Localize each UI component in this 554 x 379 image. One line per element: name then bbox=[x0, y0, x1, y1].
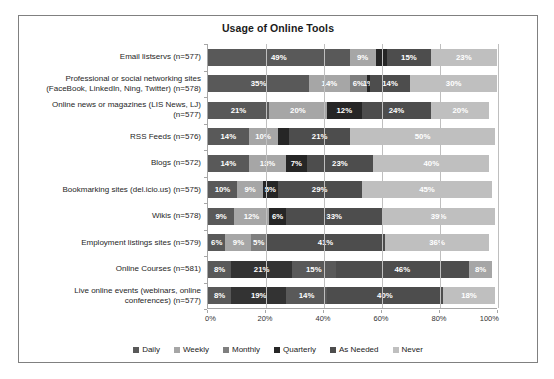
bar-segment[interactable]: 21% bbox=[231, 261, 292, 278]
bar-segment-label: 20% bbox=[452, 106, 468, 115]
legend-label: Weekly bbox=[183, 345, 209, 354]
bar-segment[interactable]: 46% bbox=[336, 261, 469, 278]
bar-segment[interactable]: 24% bbox=[362, 102, 432, 119]
x-axis-tick bbox=[265, 310, 266, 313]
bar-segment[interactable]: 14% bbox=[309, 75, 349, 92]
x-axis: 0%20%40%60%80%100% bbox=[207, 310, 497, 326]
category-label-line: (FaceBook, LinkedIn, Ning, Twitter) (n=5… bbox=[19, 84, 201, 94]
bar-segment-label: 9% bbox=[233, 238, 244, 247]
bar-segment[interactable]: 15% bbox=[292, 261, 336, 278]
bar-row[interactable]: 49%9%15%23% bbox=[208, 49, 497, 66]
bar-row[interactable]: 35%14%6%1%14%30% bbox=[208, 75, 497, 92]
bar-segment[interactable]: 8% bbox=[208, 287, 231, 304]
bar-segment[interactable]: 9% bbox=[237, 181, 263, 198]
bar-segment[interactable]: 15% bbox=[387, 49, 430, 66]
legend-item[interactable]: Monthly bbox=[223, 345, 260, 354]
bar-segment[interactable]: 8% bbox=[469, 261, 492, 278]
x-axis-tick bbox=[207, 310, 208, 313]
bar-segment-label: 21% bbox=[312, 132, 328, 141]
bar-segment[interactable]: 41% bbox=[266, 234, 385, 251]
category-label: Online news or magazines (LIS News, LJ)(… bbox=[19, 100, 201, 120]
legend-label: Daily bbox=[142, 345, 160, 354]
bar-segment[interactable]: 35% bbox=[208, 75, 309, 92]
bar-segment[interactable]: 19% bbox=[231, 287, 286, 304]
bar-segment[interactable]: 33% bbox=[286, 208, 382, 225]
bar-segment[interactable]: 9% bbox=[208, 208, 234, 225]
bar-row[interactable]: 10%9%5%29%45% bbox=[208, 181, 497, 198]
bar-segment-label: 8% bbox=[214, 291, 225, 300]
bar-row[interactable]: 14%10%21%50% bbox=[208, 128, 497, 145]
bar-segment-label: 21% bbox=[254, 265, 270, 274]
bar-segment-label: 45% bbox=[419, 185, 435, 194]
legend-item[interactable]: Quarterly bbox=[274, 345, 316, 354]
bar-row[interactable]: 14%13%7%23%40% bbox=[208, 155, 497, 172]
bar-segment[interactable]: 40% bbox=[327, 287, 443, 304]
bar-segment[interactable]: 13% bbox=[249, 155, 287, 172]
bar-segment[interactable]: 30% bbox=[410, 75, 497, 92]
bar-segment[interactable]: 12% bbox=[234, 208, 269, 225]
category-label: Online Courses (n=581) bbox=[19, 264, 201, 274]
x-axis-tick bbox=[381, 310, 382, 313]
bar-segment[interactable]: 12% bbox=[327, 102, 362, 119]
bar-segment[interactable]: 9% bbox=[225, 234, 251, 251]
bar-segment[interactable]: 10% bbox=[208, 181, 237, 198]
bar-row[interactable]: 8%19%14%40%18% bbox=[208, 287, 497, 304]
bar-segment[interactable]: 14% bbox=[208, 128, 249, 145]
bar-segment[interactable]: 18% bbox=[443, 287, 495, 304]
bar-segment[interactable]: 50% bbox=[350, 128, 495, 145]
legend-label: As Needed bbox=[339, 345, 379, 354]
bar-segment[interactable]: 36% bbox=[385, 234, 489, 251]
bar-segment-label: 15% bbox=[306, 265, 322, 274]
category-label-line: conferences) (n=577) bbox=[19, 296, 201, 306]
bar-segment-label: 40% bbox=[423, 159, 439, 168]
category-label: Professional or social networking sites(… bbox=[19, 74, 201, 94]
gridline bbox=[324, 44, 325, 308]
bar-row[interactable]: 6%9%5%41%36% bbox=[208, 234, 497, 251]
bar-row[interactable]: 8%21%15%46%8% bbox=[208, 261, 497, 278]
legend-item[interactable]: As Needed bbox=[330, 345, 379, 354]
bar-row[interactable]: 9%12%6%33%39% bbox=[208, 208, 497, 225]
bar-segment-label: 24% bbox=[389, 106, 405, 115]
bar-segment-label: 21% bbox=[231, 106, 247, 115]
bar-segment[interactable]: 14% bbox=[208, 155, 249, 172]
bar-segment-label: 23% bbox=[456, 53, 472, 62]
bar-segment-label: 36% bbox=[429, 238, 445, 247]
bar-segment[interactable] bbox=[278, 128, 290, 145]
bar-segment-label: 12% bbox=[336, 106, 352, 115]
bar-segment[interactable]: 20% bbox=[269, 102, 327, 119]
x-axis-tick-label: 100% bbox=[480, 314, 499, 323]
bar-segment-label: 14% bbox=[220, 132, 236, 141]
bar-segment[interactable]: 49% bbox=[208, 49, 350, 66]
legend-label: Monthly bbox=[232, 345, 260, 354]
category-label: Blogs (n=572) bbox=[19, 158, 201, 168]
bar-segment[interactable]: 9% bbox=[350, 49, 376, 66]
legend-swatch-icon bbox=[174, 347, 180, 353]
bar-segment-label: 23% bbox=[332, 159, 348, 168]
bar-segment[interactable]: 40% bbox=[373, 155, 489, 172]
bar-segment-label: 46% bbox=[394, 265, 410, 274]
x-axis-tick-label: 40% bbox=[315, 314, 330, 323]
bar-segment-label: 33% bbox=[326, 212, 342, 221]
bar-segment[interactable]: 6% bbox=[269, 208, 286, 225]
chart-title: Usage of Online Tools bbox=[19, 22, 537, 34]
bar-segment[interactable]: 39% bbox=[382, 208, 495, 225]
bar-segment[interactable]: 21% bbox=[208, 102, 269, 119]
bar-segment[interactable]: 14% bbox=[370, 75, 410, 92]
bar-segment-label: 10% bbox=[215, 185, 231, 194]
legend-item[interactable]: Weekly bbox=[174, 345, 209, 354]
legend-item[interactable]: Daily bbox=[133, 345, 160, 354]
bar-segment[interactable]: 23% bbox=[307, 155, 374, 172]
bar-segment[interactable]: 6% bbox=[208, 234, 225, 251]
bar-segment[interactable]: 8% bbox=[208, 261, 231, 278]
bar-segment[interactable]: 10% bbox=[249, 128, 278, 145]
bar-segment[interactable]: 29% bbox=[278, 181, 362, 198]
bar-segment[interactable]: 14% bbox=[286, 287, 327, 304]
legend-item[interactable]: Never bbox=[393, 345, 423, 354]
chart-frame: Usage of Online Tools Email listservs (n… bbox=[18, 15, 538, 363]
category-label-line: Live online events (webinars, online bbox=[19, 286, 201, 296]
bar-segment[interactable]: 7% bbox=[286, 155, 306, 172]
bar-row[interactable]: 21%20%12%24%20% bbox=[208, 102, 497, 119]
bar-segment[interactable]: 5% bbox=[251, 234, 266, 251]
bar-segment-label: 6% bbox=[211, 238, 222, 247]
bar-segment[interactable]: 21% bbox=[289, 128, 350, 145]
